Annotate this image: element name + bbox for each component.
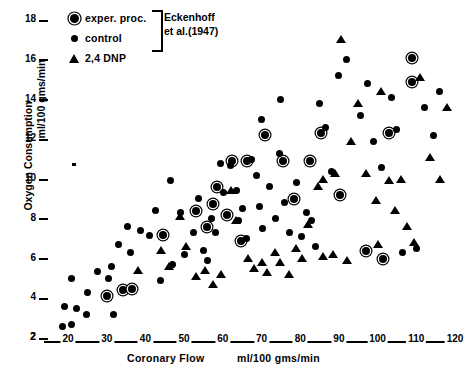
data-point-exper [119, 286, 127, 294]
data-point-dnp [262, 268, 272, 276]
data-point-control [393, 126, 400, 133]
y-tick-6: 6 [20, 252, 48, 263]
x-tick-90: 90 [331, 333, 346, 344]
x-tick-120: 120 [445, 333, 466, 344]
data-point-exper [290, 195, 298, 203]
x-tick-30: 30 [99, 333, 114, 344]
data-point-control [68, 275, 75, 282]
x-axis-origin-label: 2 [30, 331, 36, 342]
legend-citation-line2: et al.(1947) [164, 24, 218, 38]
data-point-control [256, 203, 263, 210]
data-point-exper [362, 247, 370, 255]
y-tick-mark [39, 139, 48, 141]
data-point-control [115, 241, 122, 248]
data-point-dnp [425, 153, 435, 161]
data-point-control [105, 275, 112, 282]
y-tick-8: 8 [20, 212, 48, 223]
y-tick-mark [39, 20, 48, 22]
data-point-control [190, 229, 197, 236]
data-point-dnp [275, 258, 285, 266]
y-tick-label: 16 [20, 53, 36, 64]
data-point-control [316, 100, 323, 107]
y-tick-mark [39, 99, 48, 101]
data-point-dnp [284, 270, 294, 278]
data-point-control [286, 229, 293, 236]
data-point-control [258, 116, 265, 123]
y-tick-16: 16 [20, 53, 48, 64]
data-point-dnp [164, 262, 174, 270]
x-tick-100: 100 [367, 333, 388, 344]
data-point-control [370, 138, 377, 145]
data-point-control [266, 183, 273, 190]
data-point-dnp [390, 206, 400, 214]
data-point-control [436, 88, 443, 95]
legend-item-control: control [63, 28, 146, 48]
data-point-control [217, 160, 224, 167]
data-point-control [413, 245, 420, 252]
data-point-dnp [243, 254, 253, 262]
data-point-control [68, 321, 75, 328]
data-point-dnp [200, 266, 210, 274]
data-point-control [272, 215, 279, 222]
y-tick-mark [39, 218, 48, 220]
data-point-exper [159, 231, 167, 239]
data-point-control [137, 227, 144, 234]
data-point-exper [279, 157, 287, 165]
data-point-dnp [226, 186, 236, 194]
data-point-dnp [318, 175, 328, 183]
data-point-control [152, 207, 159, 214]
data-point-dnp [396, 175, 406, 183]
chart-legend: exper. proc. control 2,4 DNP [63, 8, 146, 68]
data-point-dnp [318, 252, 328, 260]
data-point-dnp [133, 266, 143, 274]
data-point-dnp [415, 73, 425, 81]
data-point-exper [192, 207, 200, 215]
data-point-control [298, 233, 305, 240]
x-axis-units: ml/100 gms/min [237, 352, 320, 364]
y-tick-mark [39, 59, 48, 61]
data-point-dnp [181, 242, 191, 250]
data-point-control [167, 177, 174, 184]
data-point-dnp [435, 175, 445, 183]
y-tick-label: 6 [20, 252, 36, 263]
data-point-control [259, 225, 266, 232]
data-point-exper [379, 255, 387, 263]
y-tick-mark [39, 258, 48, 260]
data-point-control [335, 72, 342, 79]
legend-bracket [152, 10, 163, 52]
data-point-control [227, 162, 234, 169]
legend-label-dnp: 2,4 DNP [85, 53, 126, 64]
data-point-control [399, 249, 406, 256]
data-point-dnp [336, 35, 346, 43]
data-point-control [293, 179, 300, 186]
data-point-dnp [156, 246, 166, 254]
data-point-exper [306, 157, 314, 165]
y-tick-label: 8 [20, 212, 36, 223]
data-point-exper [103, 292, 111, 300]
data-point-dnp [361, 169, 371, 177]
data-point-exper [223, 211, 231, 219]
data-point-control [253, 172, 260, 179]
data-point-control [243, 235, 250, 242]
data-point-dnp [330, 169, 340, 177]
legend-label-exper-proc: exper. proc. [85, 13, 146, 24]
legend-item-exper-proc: exper. proc. [63, 8, 146, 28]
data-point-control [343, 56, 350, 63]
legend-citation: Eckenhoff et al.(1947) [164, 10, 218, 38]
data-point-control [208, 215, 215, 222]
x-tick-70: 70 [254, 333, 269, 344]
y-tick-4: 4 [20, 291, 48, 302]
data-point-dnp [409, 238, 419, 246]
data-point-control [124, 223, 131, 230]
data-point-control [312, 243, 319, 250]
y-tick-label: 12 [20, 132, 36, 143]
data-point-control [73, 305, 80, 312]
data-point-dnp [191, 272, 201, 280]
data-point-dnp [371, 196, 381, 204]
data-point-dnp [373, 240, 383, 248]
x-tick-50: 50 [177, 333, 192, 344]
data-point-control [200, 247, 207, 254]
data-point-control [157, 277, 164, 284]
y-tick-label: 4 [20, 291, 36, 302]
data-point-control [421, 104, 428, 111]
